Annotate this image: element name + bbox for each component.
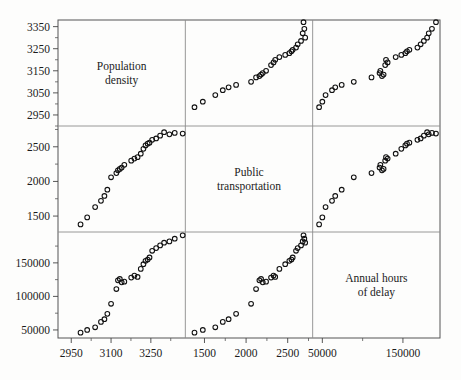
data-point <box>303 35 308 40</box>
data-point <box>333 194 338 199</box>
data-point <box>200 99 205 104</box>
diagonal-label-line1: Population <box>97 60 147 73</box>
x-tick-label: 3250 <box>139 347 162 359</box>
data-point <box>249 301 254 306</box>
data-point <box>192 105 197 110</box>
y-tick-label: 1500 <box>27 210 50 222</box>
data-point <box>339 187 344 192</box>
data-point <box>399 147 404 152</box>
x-tick-label: 2950 <box>60 347 83 359</box>
data-point <box>78 330 83 335</box>
x-tick-label: 2000 <box>235 347 258 359</box>
y-tick-label: 150000 <box>16 257 51 269</box>
data-point <box>234 83 239 88</box>
data-point <box>172 131 177 136</box>
diagonal-label-line2: transportation <box>217 180 281 193</box>
y-tick-label: 3150 <box>27 65 50 77</box>
data-point <box>167 239 172 244</box>
diagonal-label-line2: of delay <box>358 286 396 299</box>
data-point <box>213 93 218 98</box>
data-point <box>430 26 435 31</box>
data-point <box>317 105 322 110</box>
scatter-panel <box>78 233 185 335</box>
data-point <box>172 236 177 241</box>
data-point <box>162 130 167 135</box>
data-point <box>330 198 335 203</box>
data-point <box>283 53 288 58</box>
data-point <box>114 287 119 292</box>
x-tick-label: 2500 <box>276 347 299 359</box>
data-point <box>283 262 288 267</box>
data-point <box>369 75 374 80</box>
data-point <box>78 222 83 227</box>
y-tick-label: 100000 <box>16 290 51 302</box>
x-tick-label: 50000 <box>308 347 337 359</box>
y-tick-label: 2500 <box>27 141 50 153</box>
data-point <box>105 187 110 192</box>
diagonal-label-line1: Public <box>234 166 263 178</box>
data-point <box>167 132 172 137</box>
data-point <box>220 320 225 325</box>
scatter-panel <box>317 20 439 110</box>
data-point <box>301 20 306 25</box>
data-point <box>150 248 155 253</box>
scatter-panel <box>78 130 185 227</box>
data-point <box>226 85 231 90</box>
data-point <box>320 215 325 220</box>
x-tick-label: 150000 <box>386 347 421 359</box>
data-point <box>415 45 420 50</box>
data-point <box>109 301 114 306</box>
diagonal-label-line2: density <box>105 74 138 87</box>
data-point <box>105 312 110 317</box>
y-tick-label: 2950 <box>27 109 50 121</box>
data-point <box>99 198 104 203</box>
y-tick-label: 3350 <box>27 21 50 33</box>
data-point <box>180 131 185 136</box>
data-point <box>93 205 98 210</box>
data-point <box>317 222 322 227</box>
data-point <box>93 325 98 330</box>
data-point <box>277 267 282 272</box>
data-point <box>330 88 335 93</box>
data-point <box>85 215 90 220</box>
data-point <box>320 99 325 104</box>
data-point <box>393 151 398 156</box>
data-point <box>369 171 374 176</box>
scatterplot-matrix-figure: 3350325031503050295025002000150015000010… <box>0 0 461 380</box>
data-point <box>213 325 218 330</box>
y-tick-label: 3250 <box>27 43 50 55</box>
diagonal-label-line1: Annual hours <box>345 272 408 284</box>
data-point <box>109 175 114 180</box>
scatter-panel <box>192 233 307 335</box>
data-point <box>351 175 356 180</box>
x-tick-label: 1500 <box>193 347 216 359</box>
x-tick-label: 3100 <box>100 347 123 359</box>
data-point <box>200 328 205 333</box>
data-point <box>226 317 231 322</box>
y-tick-label: 2000 <box>27 175 50 187</box>
data-point <box>220 88 225 93</box>
matrix-svg: 3350325031503050295025002000150015000010… <box>0 0 461 380</box>
data-point <box>393 55 398 60</box>
data-point <box>192 330 197 335</box>
data-point <box>99 320 104 325</box>
data-point <box>323 205 328 210</box>
data-point <box>323 93 328 98</box>
scatter-panel <box>192 20 307 110</box>
scatter-panel <box>317 130 439 227</box>
data-point <box>102 194 107 199</box>
data-point <box>234 312 239 317</box>
data-point <box>434 20 439 25</box>
data-point <box>180 233 185 238</box>
data-point <box>249 79 254 84</box>
data-point <box>399 53 404 58</box>
data-point <box>138 267 143 272</box>
data-point <box>339 83 344 88</box>
data-point <box>254 287 259 292</box>
data-point <box>300 31 305 36</box>
data-point <box>85 328 90 333</box>
data-point <box>351 79 356 84</box>
y-tick-label: 50000 <box>21 324 50 336</box>
data-point <box>122 162 127 167</box>
y-tick-label: 3050 <box>27 87 50 99</box>
